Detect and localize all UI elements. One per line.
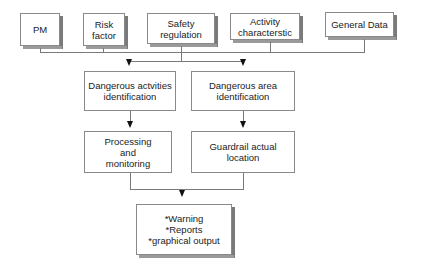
process-label: Guardrail actual location	[206, 141, 280, 163]
input-label: Activity characterstic	[234, 16, 296, 38]
connector-line	[130, 173, 131, 189]
output-box: *Warning *Reports *graphical output	[136, 204, 232, 255]
arrow-down-icon	[179, 190, 185, 197]
merge-line	[130, 189, 244, 190]
input-box-risk-factor: Risk factor	[83, 13, 125, 46]
input-box-safety-regulation: Safety regulation	[147, 13, 215, 44]
arrow-down-icon	[126, 59, 132, 66]
connector-line	[364, 39, 365, 52]
process-label: Dangerous area identification	[202, 80, 284, 102]
connector-line	[181, 46, 182, 62]
process-label: Dangerous actvities identification	[85, 80, 175, 102]
arrow-down-icon	[127, 121, 133, 128]
arrow-down-icon	[240, 59, 246, 66]
arrow-down-icon	[240, 121, 246, 128]
output-line-graphical: *graphical output	[148, 235, 219, 246]
connector-line	[243, 173, 244, 189]
process-label: Processing and monitoring	[97, 136, 159, 169]
connector-line	[270, 42, 271, 52]
input-box-activity-characteristic: Activity characterstic	[230, 13, 300, 40]
input-label: Safety regulation	[154, 18, 208, 40]
process-box-dangerous-area: Dangerous area identification	[191, 71, 295, 111]
split-line	[130, 61, 244, 62]
input-label: General Data	[331, 19, 388, 30]
input-label: PM	[33, 24, 47, 35]
process-box-dangerous-activities: Dangerous actvities identification	[84, 71, 176, 111]
process-box-guardrail-location: Guardrail actual location	[191, 131, 295, 173]
input-box-pm: PM	[20, 13, 60, 46]
output-line-warning: *Warning	[165, 213, 204, 224]
output-line-reports: *Reports	[166, 224, 203, 235]
input-label: Risk factor	[88, 19, 120, 41]
input-bus-line	[40, 52, 365, 53]
input-box-general-data: General Data	[325, 12, 394, 37]
process-box-processing-monitoring: Processing and monitoring	[84, 131, 172, 173]
